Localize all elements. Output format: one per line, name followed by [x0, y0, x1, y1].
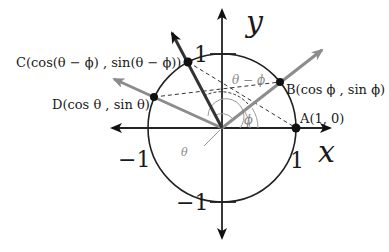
- tick-label-x-neg: −1: [118, 147, 150, 172]
- x-axis-label: x: [318, 134, 335, 169]
- theta-minus-phi-arc: [204, 92, 248, 104]
- point-C: [184, 58, 193, 67]
- point-label-A: A(1, 0): [299, 111, 344, 126]
- angle-label-theta: θ: [181, 146, 188, 159]
- tick-label-y-neg: −1: [176, 190, 208, 215]
- unit-circle-diagram: y x 1 1 −1 −1 C(cos(θ − ϕ) , sin(θ − ϕ))…: [0, 0, 389, 252]
- point-D: [150, 93, 158, 101]
- phi-arc-outer: [252, 108, 258, 128]
- point-label-D: D(cos θ , sin θ): [52, 97, 150, 112]
- point-label-C: C(cos(θ − ϕ) , sin(θ − ϕ)): [16, 55, 181, 70]
- point-B: [276, 78, 284, 86]
- tick-label-y-pos: 1: [194, 42, 208, 67]
- y-axis-label: y: [244, 4, 264, 39]
- theta-pointer: [204, 130, 220, 146]
- point-label-B: B(cos ϕ , sin ϕ): [286, 82, 385, 97]
- tick-label-x-pos: 1: [290, 148, 304, 173]
- angle-label-phi: ϕ: [244, 112, 253, 127]
- angle-label-theta-minus-phi: θ − ϕ: [232, 73, 265, 87]
